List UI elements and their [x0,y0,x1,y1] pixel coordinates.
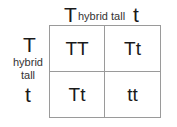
side-parent-label-line2: tall [21,70,35,81]
cell-tt: tt [105,72,160,117]
punnett-grid: TT Tt Tt tt [49,25,161,118]
side-parent-label-line1: hybrid [13,57,43,68]
side-allele-bottom: t [25,84,31,105]
side-allele-top: T [23,34,36,55]
top-allele-right: t [133,4,139,25]
cell-Tt-top-right: Tt [105,26,160,72]
cell-Tt-bottom-left: Tt [50,72,105,117]
top-parent-label: hybrid tall [78,11,125,22]
cell-TT: TT [50,26,105,72]
top-allele-left: T [64,4,77,25]
